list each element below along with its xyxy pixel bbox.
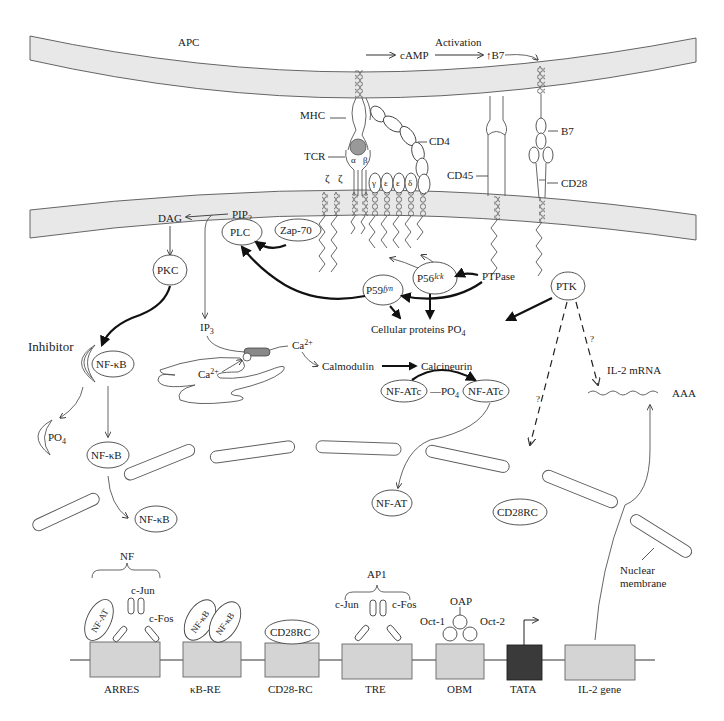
- epsilon-1-label: ε: [384, 178, 388, 188]
- pkc-node: PKC: [153, 255, 187, 285]
- phosphorylated-inhibitor: PO4: [38, 420, 66, 455]
- p59fyn-node: P59fyn: [363, 275, 403, 305]
- zeta-2-label: ζ: [338, 172, 343, 185]
- activation-label: Activation: [435, 36, 482, 48]
- ip3-label: IP3: [200, 321, 214, 336]
- nfat-node: NF-AT: [372, 490, 412, 516]
- question-label-2: ?: [536, 394, 540, 404]
- cd28rc-node: CD28RC: [493, 499, 547, 525]
- nfatc-node: NF-ATc: [463, 380, 509, 402]
- transcription-start-arrow: [524, 620, 538, 645]
- ptk-label: PTK: [556, 280, 577, 292]
- il2-gene: IL-2 gene: [565, 645, 635, 695]
- po4-label: PO4: [48, 431, 66, 446]
- tre-label: TRE: [365, 683, 386, 695]
- nf-complex: NF NF-AT c-Jun c-Fos: [79, 550, 174, 645]
- nfkb-label-1: NF-κB: [96, 358, 127, 370]
- nfkb-label-2: NF-κB: [91, 449, 122, 461]
- ap1-complex: AP1 c-Jun c-Fos: [335, 568, 416, 642]
- plc-label: PLC: [230, 226, 250, 238]
- activation-flow: cAMP Activation ↑B7: [366, 36, 538, 61]
- ptpase-to-p56-arrow: [456, 274, 478, 276]
- nfkb-node-2: NF-κB: [87, 442, 129, 468]
- promoter-cd28rc-label: CD28RC: [270, 626, 311, 638]
- gamma-label: γ: [371, 178, 376, 188]
- tata-label: TATA: [510, 683, 536, 695]
- nf-cjun-label: c-Jun: [131, 584, 155, 596]
- delta-label: δ: [408, 178, 412, 188]
- calmodulin-label: Calmodulin: [322, 360, 374, 372]
- nf-bracket-label: NF: [120, 550, 134, 562]
- cd28-rc-label: CD28-RC: [268, 683, 313, 695]
- oap-label: OAP: [450, 595, 472, 607]
- antigen-peptide: [350, 139, 366, 155]
- promoter-cd28rc-factor: CD28RC: [265, 620, 319, 644]
- pkc-to-nfkb-arrow: [102, 286, 170, 345]
- nuclear-membrane-label-2: membrane: [620, 577, 667, 589]
- p59-to-plc-arrow: [242, 247, 365, 299]
- poly-a-tail: AAA: [672, 387, 696, 399]
- obm-label: OBM: [447, 683, 472, 695]
- cd28-label: CD28: [561, 177, 588, 189]
- octamer-complex: OAP Oct-1 Oct-2: [420, 595, 505, 641]
- ap1-cfos-label: c-Fos: [392, 598, 416, 610]
- cd28rc-label: CD28RC: [497, 506, 538, 518]
- nuclear-membrane: Nuclear membrane: [31, 440, 694, 589]
- mhc-transmembrane: [355, 70, 363, 98]
- zeta-1-label: ζ: [325, 172, 330, 185]
- ptpase-label: PTPase: [482, 270, 515, 282]
- pkc-label: PKC: [157, 264, 178, 276]
- dag-label: DAG: [158, 212, 182, 224]
- apc-label: APC: [178, 36, 199, 48]
- nfatc-po4-label: —PO4: [429, 385, 459, 400]
- cellular-proteins-label: Cellular proteins PO4: [371, 323, 465, 338]
- nuclear-membrane-label-1: Nuclear: [620, 564, 655, 576]
- ptk-to-il2mrna-dashed: [576, 302, 598, 385]
- zap70-label: Zap-70: [280, 224, 312, 236]
- question-label-1: ?: [590, 334, 594, 344]
- cd45-label: CD45: [447, 169, 474, 181]
- nfatc-phospho-node: NF-ATc: [381, 380, 427, 402]
- zap70-node: Zap-70: [275, 219, 321, 241]
- ptk-to-proteins-arrow: [507, 298, 552, 320]
- promoter-element-tata: TATA: [507, 645, 542, 695]
- tcr-label: TCR: [304, 150, 326, 162]
- inhibitor-label: Inhibitor: [28, 339, 74, 354]
- mhc-tcr-complex: α β MHC TCR: [300, 98, 371, 196]
- p56lck-node: P56lck: [413, 262, 457, 294]
- mrna-strand: [588, 391, 658, 395]
- promoter-element-obm: OBM: [436, 644, 484, 695]
- ptk-to-cd28rc-dashed: [530, 302, 567, 445]
- mhc-label: MHC: [300, 109, 325, 121]
- promoter-element-arres: ARRES: [90, 642, 160, 695]
- il2-gene-label: IL-2 gene: [578, 683, 621, 695]
- beta-label: β: [363, 155, 368, 165]
- nfatc-label-2: NF-ATc: [468, 385, 503, 397]
- b7-transmembrane: [537, 66, 545, 94]
- ptk-node: PTK: [551, 272, 585, 300]
- ap1-bracket-label: AP1: [367, 568, 387, 580]
- ca-label-1: Ca2+: [292, 338, 313, 351]
- nfkb-node-3: NF-κB: [135, 506, 177, 532]
- promoter-element-tre: TRE: [342, 644, 412, 695]
- oct2-label: Oct-2: [480, 615, 505, 627]
- promoter-element-cd28rc: CD28-RC: [265, 643, 319, 695]
- promoter-element-kbre: κB-RE: [183, 642, 241, 695]
- kbre-label: κB-RE: [190, 683, 221, 695]
- cd45: CD45: [447, 96, 507, 196]
- ap1-cjun-label: c-Jun: [335, 598, 359, 610]
- cd4-label: CD4: [429, 135, 450, 147]
- pathway-diagram: APC cAMP Activation ↑B7 α β MHC TCR: [0, 0, 724, 721]
- arres-label: ARRES: [104, 683, 139, 695]
- nfatc-label-1: NF-ATc: [386, 385, 421, 397]
- epsilon-2-label: ε: [396, 178, 400, 188]
- alpha-label: α: [351, 155, 356, 165]
- oct1-label: Oct-1: [420, 615, 445, 627]
- camp-label: cAMP: [400, 49, 429, 61]
- kbre-nfkb-dimer: NF-κB NF-κB: [178, 594, 248, 647]
- endoplasmic-reticulum: [158, 358, 284, 404]
- plc-node: PLC: [222, 219, 262, 245]
- il2-mrna-label: IL-2 mRNA: [607, 364, 661, 376]
- b7-label: B7: [561, 125, 574, 137]
- nfat-label: NF-AT: [376, 497, 407, 509]
